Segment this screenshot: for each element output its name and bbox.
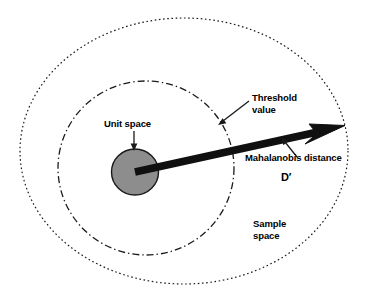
diagram-canvas: Threshold value Unit space Mahalanobis d… <box>0 0 366 306</box>
sample-space-label: Sample space <box>253 218 286 241</box>
threshold-value-label: Threshold value <box>252 92 297 115</box>
sample-space-ellipse <box>20 18 348 284</box>
unit-space-label: Unit space <box>104 118 151 130</box>
mahalanobis-distance-arrow <box>135 124 345 172</box>
threshold-value-leader-arrow <box>218 101 249 125</box>
mahalanobis-distance-symbol-label: D′ <box>281 172 291 184</box>
unit-space-leader-arrow <box>131 131 138 151</box>
mahalanobis-distance-label: Mahalanobis distance <box>245 152 342 164</box>
